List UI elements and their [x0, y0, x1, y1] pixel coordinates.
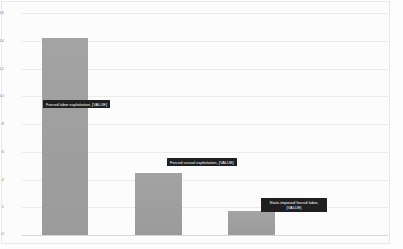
plot-area: 16 14 12 10 8 6 4 2 0 Forced labor explo…: [22, 10, 388, 236]
ytick-label-10: 10: [0, 94, 4, 98]
data-label-state-imposed-forced-labor: State-imposed forced labor, [VALUE]: [261, 198, 327, 212]
gridline-16: [22, 13, 388, 14]
ytick-label-6: 6: [0, 150, 4, 154]
bar-forced-sexual-exploitation[interactable]: [135, 173, 182, 236]
ytick-label-14: 14: [0, 39, 4, 43]
bar-chart: 16 14 12 10 8 6 4 2 0 Forced labor explo…: [0, 0, 403, 249]
data-label-forced-sexual-exploitation: Forced sexual exploitation, [VALUE]: [167, 158, 237, 166]
ytick-label-0: 0: [0, 232, 4, 236]
data-label-line-2: [VALUE]: [287, 205, 302, 210]
data-label-line-1: State-imposed forced labor,: [270, 200, 319, 205]
ytick-label-16: 16: [0, 11, 4, 15]
ytick-label-12: 12: [0, 67, 4, 71]
bar-forced-labor-exploitation[interactable]: [42, 38, 88, 235]
ytick-label-8: 8: [0, 122, 4, 126]
ytick-label-2: 2: [0, 205, 4, 209]
ytick-label-4: 4: [0, 178, 4, 182]
bar-state-imposed-forced-labor[interactable]: [228, 211, 275, 235]
x-axis-line: [22, 235, 388, 236]
data-label-forced-labor-exploitation: Forced labor exploitation, [VALUE]: [43, 100, 110, 108]
